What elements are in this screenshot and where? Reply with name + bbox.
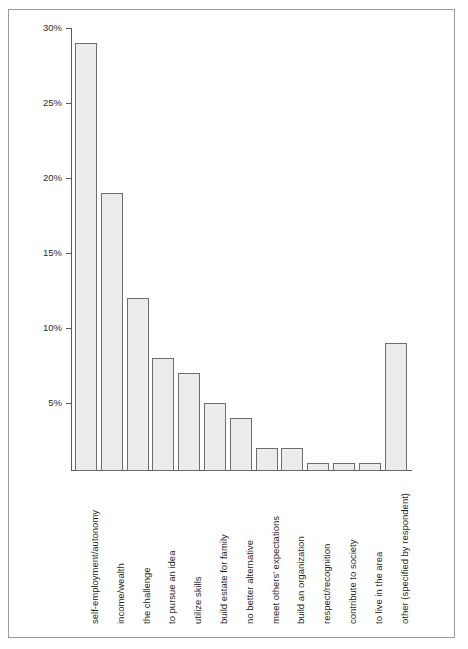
y-axis-tick-mark: [66, 328, 71, 329]
x-axis-category-label: contribute to society: [348, 540, 358, 625]
x-axis-category-label: no better alternative: [245, 540, 255, 624]
bar: [127, 298, 149, 471]
x-axis-category-label: to live in the area: [374, 552, 384, 624]
bar: [307, 463, 329, 471]
bar: [101, 193, 123, 471]
bar: [152, 358, 174, 471]
bar: [204, 403, 226, 471]
y-axis-tick-mark: [66, 103, 71, 104]
y-axis-tick-label: 20%: [26, 173, 62, 183]
x-axis-category-label: other (specified by respondent): [400, 493, 410, 624]
x-axis-category-label: income/wealth: [116, 563, 126, 624]
bar: [230, 418, 252, 471]
x-axis-category-label: build an organization: [296, 536, 306, 624]
x-axis-category-label: the challenge: [142, 567, 152, 624]
bar-chart-plot-area: 5%10%15%20%25%30% self-employment/autono…: [0, 0, 468, 649]
y-axis-tick-mark: [66, 178, 71, 179]
bar: [359, 463, 381, 471]
bar: [256, 448, 278, 471]
x-axis-category-label: to pursue an idea: [167, 551, 177, 624]
bar: [178, 373, 200, 471]
bar: [333, 463, 355, 471]
y-axis-tick-mark: [66, 403, 71, 404]
x-axis-category-label: utilize skills: [193, 576, 203, 624]
y-axis-tick-mark: [66, 28, 71, 29]
chart-figure: 5%10%15%20%25%30% self-employment/autono…: [0, 0, 468, 649]
bar: [385, 343, 407, 471]
x-axis-category-label: meet others' expectations: [271, 516, 281, 624]
y-axis-tick-label: 25%: [26, 98, 62, 108]
x-axis-category-label: respect/recognition: [322, 544, 332, 624]
y-axis-tick-label: 5%: [26, 398, 62, 408]
x-axis-category-label: self-employment/autonomy: [90, 510, 100, 624]
y-axis-line: [71, 28, 72, 471]
y-axis-tick-mark: [66, 253, 71, 254]
x-axis-category-label: build estate for family: [219, 534, 229, 624]
bar: [75, 43, 97, 471]
bar: [281, 448, 303, 471]
y-axis-tick-label: 30%: [26, 23, 62, 33]
y-axis-tick-label: 15%: [26, 248, 62, 258]
y-axis-tick-label: 10%: [26, 323, 62, 333]
